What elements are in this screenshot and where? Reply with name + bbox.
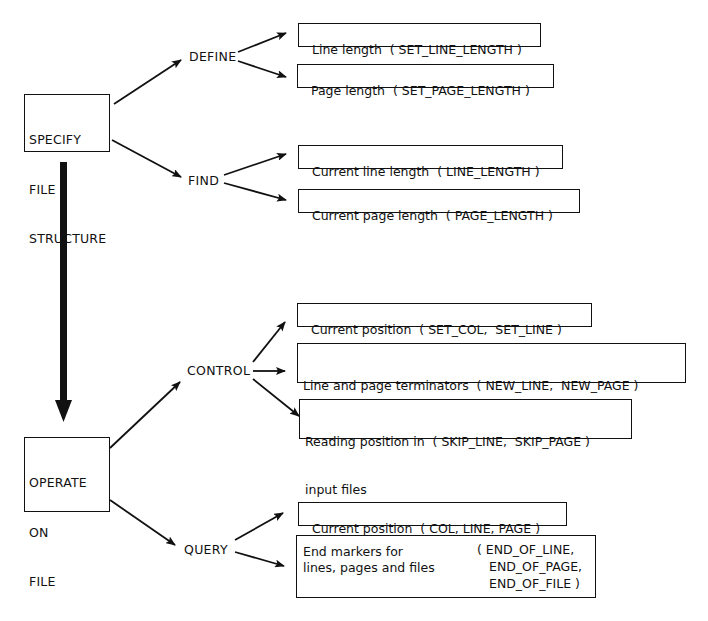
find-label: FIND: [188, 173, 219, 189]
leaf-new-line-new-page: Line and page terminators ( NEW_LINE, NE…: [297, 343, 686, 383]
leaf-text: END_OF_PAGE,: [489, 559, 582, 575]
leaf-skip-line-skip-page: Reading position in ( SKIP_LINE, SKIP_PA…: [299, 399, 632, 439]
leaf-text: lines, pages and files: [303, 560, 435, 576]
leaf-text: Reading position in ( SKIP_LINE, SKIP_PA…: [305, 434, 626, 450]
leaf-text: Current position ( COL, LINE, PAGE ): [312, 521, 540, 536]
leaf-text: END_OF_FILE ): [489, 576, 580, 592]
control-label: CONTROL: [187, 363, 250, 379]
define-label: DEFINE: [189, 49, 236, 65]
node-line: SPECIFY: [29, 132, 105, 149]
leaf-set-col-set-line: Current position ( SET_COL, SET_LINE ): [297, 303, 592, 327]
leaf-end-markers: End markers for lines, pages and files (…: [296, 535, 596, 598]
node-line: ON: [29, 525, 105, 542]
leaf-col-line-page: Current position ( COL, LINE, PAGE ): [298, 502, 567, 526]
leaf-set-page-length: Page length ( SET_PAGE_LENGTH ): [297, 64, 554, 88]
node-line: STRUCTURE: [29, 231, 105, 248]
leaf-line-length: Current line length ( LINE_LENGTH ): [298, 145, 563, 169]
specify-file-structure-node: SPECIFY FILE STRUCTURE: [24, 94, 110, 152]
leaf-text: End markers for: [303, 544, 403, 560]
leaf-page-length: Current page length ( PAGE_LENGTH ): [298, 189, 580, 213]
leaf-text: ( END_OF_LINE,: [477, 542, 574, 558]
leaf-text: Line length ( SET_LINE_LENGTH ): [312, 42, 522, 57]
leaf-text: Page length ( SET_PAGE_LENGTH ): [311, 83, 530, 98]
leaf-text: input files: [305, 482, 626, 498]
leaf-set-line-length: Line length ( SET_LINE_LENGTH ): [298, 23, 541, 47]
operate-on-file-structure-node: OPERATE ON FILE STRUCTURE: [24, 437, 110, 512]
leaf-text: Current page length ( PAGE_LENGTH ): [312, 208, 553, 223]
query-label: QUERY: [184, 542, 228, 558]
node-line: FILE: [29, 182, 105, 199]
node-line: FILE: [29, 574, 105, 591]
leaf-text: Current line length ( LINE_LENGTH ): [312, 164, 540, 179]
leaf-text: Current position ( SET_COL, SET_LINE ): [311, 322, 562, 337]
node-line: OPERATE: [29, 475, 105, 492]
leaf-text: Line and page terminators ( NEW_LINE, NE…: [303, 378, 680, 394]
